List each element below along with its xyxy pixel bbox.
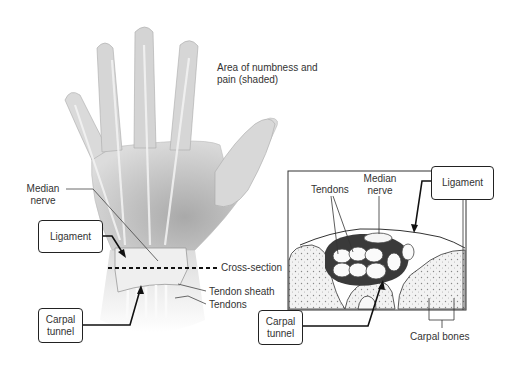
numbness-area-label: Area of numbness and pain (shaded) [217, 62, 327, 86]
median-nerve-shape [364, 233, 392, 243]
thumb [215, 119, 275, 207]
tendons-label: Tendons [209, 299, 247, 311]
carpal-tunnel-box-xsec: Carpal tunnel [258, 310, 303, 345]
median-nerve-label: Median nerve [22, 183, 64, 207]
cross-section-label: Cross-section [221, 262, 282, 274]
xsec-median-nerve-label: Median nerve [360, 173, 400, 197]
tendon-sheath-label: Tendon sheath [209, 286, 275, 298]
carpal-bones-label: Carpal bones [410, 331, 469, 343]
carpal-tunnel-box-hand-text: Carpal tunnel [43, 314, 78, 338]
ligament-box-xsec-text: Ligament [442, 177, 483, 189]
carpal-tunnel-box-hand: Carpal tunnel [38, 308, 83, 343]
ligament-box-xsec: Ligament [431, 166, 494, 200]
carpal-tunnel-box-xsec-text: Carpal tunnel [263, 316, 298, 340]
ligament-box-hand-text: Ligament [50, 231, 91, 243]
xsec-tendons-label: Tendons [311, 184, 349, 196]
ligament-box-hand: Ligament [38, 220, 103, 253]
